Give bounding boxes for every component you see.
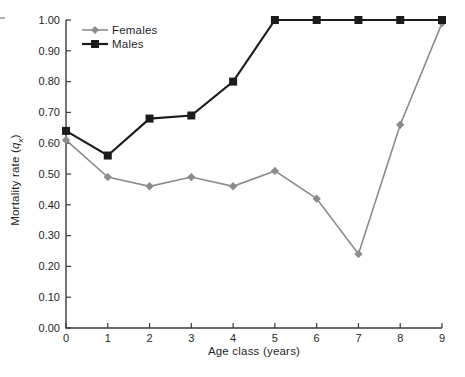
y-tick-label: 0.10 — [39, 291, 60, 303]
x-tick-label: 5 — [272, 332, 278, 344]
males-marker-point — [146, 115, 154, 123]
x-tick-label: 1 — [105, 332, 111, 344]
mortality-rate-figure: 0.000.100.200.300.400.500.600.700.800.90… — [0, 0, 465, 377]
x-axis-title: Age class (years) — [208, 345, 300, 357]
scan-artifact-mark — [0, 17, 5, 19]
legend-label-males: Males — [112, 38, 144, 50]
females-marker-icon — [82, 25, 108, 35]
females-marker-point — [229, 182, 237, 190]
y-tick-label: 1.00 — [39, 14, 60, 26]
x-tick-label: 9 — [439, 332, 445, 344]
legend-item-females: Females — [82, 23, 158, 37]
females-line — [66, 23, 442, 254]
females-marker-point — [396, 121, 404, 129]
y-axis-title-subscript: x — [16, 138, 25, 142]
x-tick-label: 2 — [146, 332, 152, 344]
males-marker-point — [229, 78, 237, 86]
males-marker-point — [62, 127, 70, 135]
y-tick-label: 0.50 — [39, 168, 60, 180]
y-tick-label: 0.00 — [39, 322, 60, 334]
y-axis-title-symbol: q — [9, 142, 21, 149]
x-tick-label: 4 — [230, 332, 236, 344]
y-tick-label: 0.60 — [39, 137, 60, 149]
males-marker-point — [396, 16, 404, 24]
axes-spines — [66, 20, 442, 328]
y-tick-label: 0.90 — [39, 45, 60, 57]
males-marker-point — [438, 16, 446, 24]
legend: Females Males — [82, 23, 158, 51]
females-marker-point — [271, 167, 279, 175]
y-axis-title: Mortality rate (qx) — [9, 134, 24, 226]
x-tick-label: 3 — [188, 332, 194, 344]
males-marker-point — [271, 16, 279, 24]
females-marker-point — [145, 182, 153, 190]
males-marker-point — [187, 111, 195, 119]
males-marker-icon — [82, 39, 108, 49]
males-marker-point — [313, 16, 321, 24]
y-tick-label: 0.40 — [39, 199, 60, 211]
legend-item-males: Males — [82, 37, 158, 51]
x-tick-label: 6 — [314, 332, 320, 344]
y-tick-label: 0.30 — [39, 229, 60, 241]
legend-label-females: Females — [112, 24, 158, 36]
x-tick-label: 8 — [397, 332, 403, 344]
males-marker-point — [354, 16, 362, 24]
males-marker-point — [104, 152, 112, 160]
y-tick-label: 0.20 — [39, 260, 60, 272]
y-axis-title-prefix: Mortality rate ( — [9, 149, 21, 226]
females-marker-point — [187, 173, 195, 181]
y-axis-title-suffix: ) — [9, 134, 21, 138]
x-tick-label: 0 — [63, 332, 69, 344]
y-tick-label: 0.80 — [39, 75, 60, 87]
y-tick-label: 0.70 — [39, 106, 60, 118]
chart-plot-area: 0.000.100.200.300.400.500.600.700.800.90… — [0, 0, 465, 377]
x-tick-label: 7 — [355, 332, 361, 344]
